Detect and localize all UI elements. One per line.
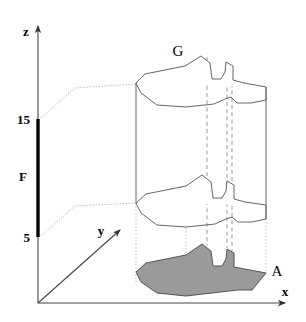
figure-container: x y z F 15 5 <box>0 0 306 322</box>
projection-lines-group <box>41 84 136 236</box>
x-axis-label: x <box>282 284 289 299</box>
middle-face-outline <box>136 175 266 205</box>
top-face-front-rim <box>136 83 266 107</box>
base-polygon-shape <box>136 244 266 296</box>
interval-F-label: F <box>19 169 27 184</box>
region-label-A: A <box>272 263 283 279</box>
three-d-prism-figure: x y z F 15 5 <box>0 0 306 322</box>
base-polygon-A <box>136 244 266 296</box>
middle-face <box>136 175 266 227</box>
projector-upper-dotted <box>41 84 136 118</box>
tick-label-15: 15 <box>17 112 31 127</box>
tick-label-5: 5 <box>24 230 31 245</box>
y-axis-label: y <box>98 223 105 238</box>
projector-lower-dotted <box>41 203 136 236</box>
y-axis-line <box>38 230 120 303</box>
z-axis-label: z <box>23 24 29 39</box>
top-face-G <box>136 56 266 107</box>
middle-face-front-rim <box>136 203 266 227</box>
interval-F-group: F <box>19 119 38 237</box>
top-face-outline <box>136 56 266 87</box>
region-label-G: G <box>173 43 184 59</box>
